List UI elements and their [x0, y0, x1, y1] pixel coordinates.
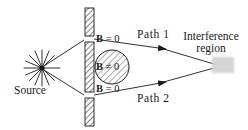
source-point — [39, 65, 44, 70]
field-relation-top: = 0 — [103, 33, 119, 44]
figure-canvas — [0, 0, 248, 130]
interference-label-line2: region — [196, 42, 225, 54]
interference-label-line1: Interference — [183, 30, 239, 42]
aharonov-bohm-figure: Source Path 1 Path 2 Interference region… — [0, 0, 248, 130]
field-zero-top-label: B = 0 — [96, 33, 119, 44]
barrier-segment-middle — [85, 42, 94, 92]
barrier-segment-top — [85, 8, 94, 36]
path1-label: Path 1 — [137, 28, 170, 40]
field-symbol-b-bottom: B — [96, 83, 103, 94]
path2-label: Path 2 — [137, 92, 170, 104]
beam-source-to-lower-slit — [44, 70, 84, 95]
beam-source-to-upper-slit — [44, 40, 84, 66]
barrier-segment-bottom — [85, 98, 94, 126]
field-zero-bottom-label: B = 0 — [96, 83, 119, 94]
field-nonzero-label: B ≠ 0 — [96, 61, 119, 72]
interference-region-patch — [212, 57, 234, 73]
interference-region-label: Interference region — [178, 30, 244, 54]
field-symbol-b-top: B — [96, 33, 103, 44]
source-label: Source — [14, 84, 46, 96]
field-relation-center: ≠ 0 — [103, 61, 119, 72]
field-symbol-b-center: B — [96, 61, 103, 72]
field-relation-bottom: = 0 — [103, 83, 119, 94]
slit-barrier — [85, 8, 94, 126]
path2-ray-segment-b — [160, 68, 214, 83]
